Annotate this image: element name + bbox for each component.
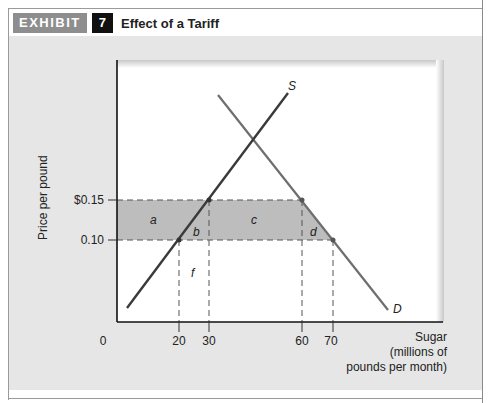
ytick-label-015: $0.15 <box>74 193 104 207</box>
region-c-label: c <box>251 213 257 227</box>
x-axis-label-line2: (millions of <box>346 345 447 360</box>
region-a-label: a <box>150 213 157 227</box>
ytick-label-010: 0.10 <box>81 233 105 247</box>
supply-label: S <box>288 79 296 93</box>
point-70-010 <box>331 238 336 243</box>
demand-label: D <box>393 302 402 316</box>
plot-right-shadow <box>436 60 444 322</box>
xtick-label-30: 30 <box>202 334 216 348</box>
point-30-015 <box>207 198 212 203</box>
origin-label: 0 <box>100 334 107 348</box>
x-axis-label: Sugar (millions of pounds per month) <box>346 330 447 375</box>
region-b-label: b <box>193 225 200 239</box>
plot-area <box>117 60 443 322</box>
x-axis-label-line3: pounds per month) <box>346 360 447 375</box>
point-20-010 <box>177 238 182 243</box>
plot-top-shadow <box>117 60 443 68</box>
y-axis-label: Price per pound <box>36 155 50 240</box>
xtick-label-60: 60 <box>295 334 309 348</box>
region-d-label: d <box>310 225 317 239</box>
xtick-label-20: 20 <box>172 334 186 348</box>
xtick-label-70: 70 <box>324 334 338 348</box>
point-60-015 <box>300 198 305 203</box>
x-axis-label-line1: Sugar <box>346 330 447 345</box>
